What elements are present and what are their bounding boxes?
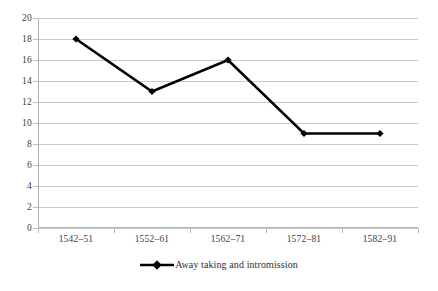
- y-axis-tick-label: 8: [2, 139, 32, 149]
- plot-area: [38, 18, 418, 228]
- x-axis-tick-label: 1552–61: [135, 234, 170, 245]
- line-chart: 02468101214161820 1542–511552–611562–711…: [0, 0, 438, 291]
- y-axis-tick-label: 16: [2, 55, 32, 65]
- y-axis-tick-label: 12: [2, 97, 32, 107]
- y-axis-tick-labels: 02468101214161820: [0, 0, 32, 291]
- y-axis-tick-label: 4: [2, 181, 32, 191]
- x-axis-tick-label: 1572–81: [287, 234, 322, 245]
- y-axis-tick-label: 6: [2, 160, 32, 170]
- series-layer: [38, 18, 418, 228]
- gridline: [38, 228, 418, 229]
- legend-marker-icon: [140, 259, 174, 271]
- x-axis-tick-label: 1562–71: [211, 234, 246, 245]
- x-axis-tick-label: 1582–91: [363, 234, 398, 245]
- legend-entry-away-taking-and-intromission: Away taking and intromission: [140, 259, 298, 271]
- y-axis-tick-label: 2: [2, 202, 32, 212]
- series-line: [76, 39, 380, 134]
- x-axis-tick: [418, 228, 419, 233]
- y-axis-tick-label: 0: [2, 223, 32, 233]
- chart-legend: Away taking and intromission: [0, 259, 438, 271]
- x-axis-tick-label: 1542–51: [59, 234, 94, 245]
- y-axis-tick-label: 18: [2, 34, 32, 44]
- y-axis-tick-label: 10: [2, 118, 32, 128]
- y-axis-tick-label: 20: [2, 13, 32, 23]
- y-axis-tick-label: 14: [2, 76, 32, 86]
- data-point-marker: [376, 130, 383, 137]
- legend-label: Away taking and intromission: [175, 259, 298, 271]
